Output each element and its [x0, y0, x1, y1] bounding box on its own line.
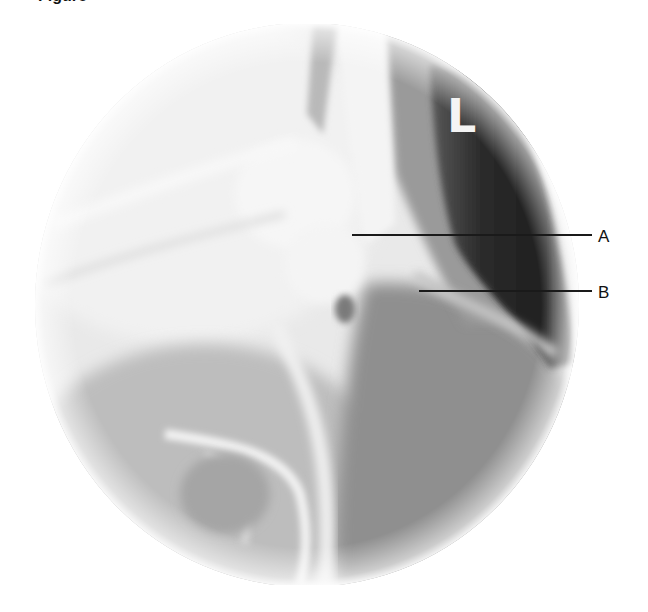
- figure-viewer: Figure: [0, 0, 648, 612]
- annotation-line-b: [419, 290, 592, 292]
- figure-caption-fragment: Figure: [38, 0, 87, 4]
- radiograph-image: [35, 24, 579, 585]
- annotation-label-a: A: [598, 228, 609, 245]
- annotation-label-b: B: [598, 284, 609, 301]
- radiograph-drawing: [35, 24, 579, 585]
- side-marker-left: L: [447, 93, 476, 139]
- annotation-line-a: [352, 234, 592, 236]
